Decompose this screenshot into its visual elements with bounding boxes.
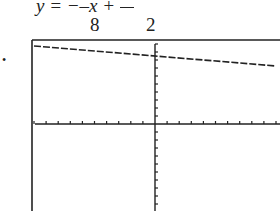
- graph: [0, 0, 280, 211]
